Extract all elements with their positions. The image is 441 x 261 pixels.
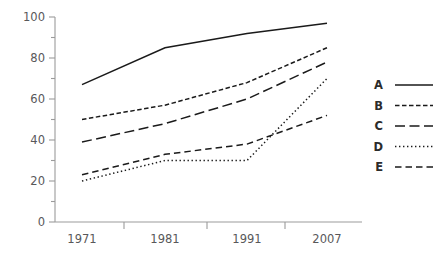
x-axis-tick-labels: 1971198119912007 (67, 232, 341, 246)
y-axis-tick-label: 80 (30, 51, 45, 65)
y-axis-tick-labels: 020406080100 (23, 10, 45, 229)
legend-label-d: D (373, 140, 383, 154)
x-axis-tick-label: 2007 (312, 232, 341, 246)
axes-group (55, 17, 362, 222)
line-chart: 020406080100 1971198119912007 ABCDE (0, 0, 441, 261)
x-axis-tick-label: 1971 (67, 232, 96, 246)
y-axis-tick-label: 20 (30, 174, 45, 188)
series-line-e (82, 115, 327, 174)
series-line-a (82, 23, 327, 85)
x-axis-tick-label: 1991 (232, 232, 261, 246)
series-line-b (82, 48, 327, 120)
y-axis-tick-label: 100 (23, 10, 45, 24)
y-axis-ticks (49, 17, 55, 222)
legend-label-c: C (375, 119, 383, 133)
series-line-c (82, 62, 327, 142)
chart-legend: ABCDE (373, 78, 433, 174)
data-series-group (82, 23, 327, 181)
chart-canvas: 020406080100 1971198119912007 ABCDE (0, 0, 441, 261)
legend-label-a: A (374, 78, 383, 92)
legend-label-e: E (375, 160, 383, 174)
x-axis-tick-label: 1981 (150, 232, 179, 246)
y-axis-tick-label: 40 (30, 133, 45, 147)
y-axis-tick-label: 0 (38, 215, 45, 229)
legend-label-b: B (374, 99, 383, 113)
x-axis-ticks (124, 222, 285, 229)
y-axis-tick-label: 60 (30, 92, 45, 106)
